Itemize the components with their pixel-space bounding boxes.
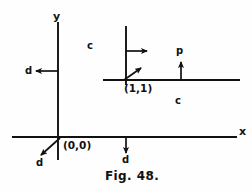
figure-caption: Fig. 48.: [105, 170, 159, 182]
c-label-upper: c: [87, 41, 93, 51]
y-axis-label: y: [53, 11, 60, 22]
p-label-above-x-axis: p: [176, 46, 183, 56]
d-label-left-of-y-axis: d: [25, 66, 32, 76]
d-label-below-origin: d: [36, 158, 43, 168]
d-label-below-x-axis: d: [122, 155, 129, 165]
point-one-one-coordinate-label: (1,1): [124, 83, 152, 94]
origin-coordinate-label: (0,0): [63, 140, 91, 151]
figure-48-container: y x d d d p c c (0,0) (1,1) Fig. 48.: [0, 0, 252, 191]
x-axis-label: x: [239, 126, 246, 137]
c-label-lower: c: [175, 96, 181, 106]
